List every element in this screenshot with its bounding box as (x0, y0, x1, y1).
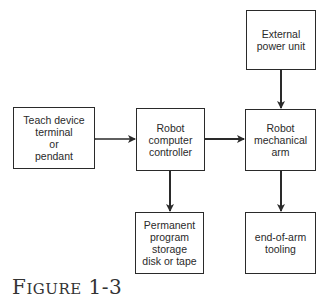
caption-number: 1-3 (82, 275, 123, 299)
node-label: Robot mechanical arm (254, 122, 307, 158)
node-end-of-arm-tooling: end-of-arm tooling (245, 212, 316, 274)
node-robot-computer-controller: Robot computer controller (136, 108, 205, 171)
node-label: end-of-arm tooling (255, 231, 306, 255)
figure-caption: FIGURE 1-3 (12, 275, 122, 299)
node-robot-mechanical-arm: Robot mechanical arm (245, 109, 316, 171)
caption-smallcaps: IGURE (26, 280, 81, 298)
node-label: Teach device terminal or pendant (23, 114, 84, 162)
node-permanent-program-storage: Permanent program storage disk or tape (135, 212, 204, 274)
node-label: Permanent program storage disk or tape (142, 219, 196, 267)
node-external-power-unit: External power unit (246, 10, 316, 70)
node-label: Robot computer controller (149, 122, 193, 158)
node-teach-device: Teach device terminal or pendant (13, 107, 95, 169)
node-label: External power unit (257, 28, 305, 52)
caption-initial: F (12, 275, 26, 299)
